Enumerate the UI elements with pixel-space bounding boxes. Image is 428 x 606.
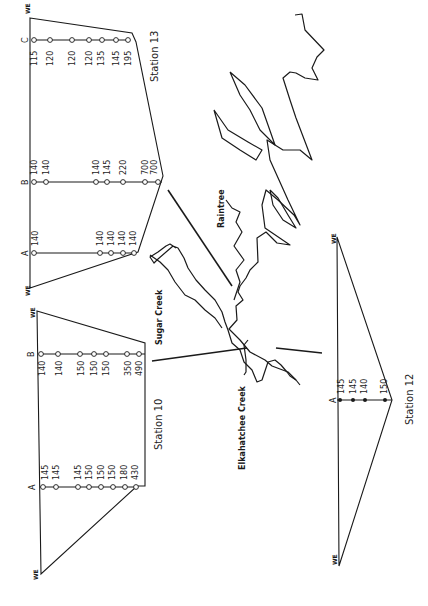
column-label: A	[28, 484, 37, 490]
station-13-group: WE WE C 115 120 120 120 135 145 195 B 14…	[21, 3, 163, 296]
lake-arm-east	[214, 110, 262, 160]
depth-value: 140	[42, 160, 51, 175]
station-10-column-a: A 145 145 145 150 150 150 180 430	[28, 465, 140, 490]
depth-value: 150	[102, 361, 111, 376]
station-12-we-bottom: WE	[331, 554, 338, 565]
depth-value: 140	[118, 231, 127, 246]
depth-value: 140	[31, 231, 40, 246]
depth-value: 140	[360, 379, 369, 394]
depth-value: 145	[337, 379, 346, 394]
depth-value: 140	[30, 160, 39, 175]
column-label: C	[21, 37, 30, 43]
depth-value: 120	[68, 51, 77, 66]
column-label: B	[27, 352, 36, 358]
lake-map: Sugar Creek Raintree Elkahatchee Creek	[150, 14, 324, 470]
station-12-label: Station 12	[404, 374, 415, 425]
station-13-we-bottom: WE	[24, 285, 31, 296]
station-12-group: WE WE A 145 145 140 150 Station 12	[329, 233, 415, 566]
depth-value: 145	[349, 379, 358, 394]
station-10-we-top: WE	[29, 307, 36, 318]
depth-value: 195	[124, 51, 133, 66]
depth-value: 150	[380, 379, 389, 394]
depth-value: 350	[124, 361, 133, 376]
depth-value: 150	[77, 361, 86, 376]
depth-value: 150	[108, 465, 117, 480]
depth-value: 490	[135, 361, 144, 376]
depth-value: 180	[120, 465, 129, 480]
column-label: A	[329, 397, 338, 403]
depth-value: 145	[41, 465, 50, 480]
depth-value: 150	[90, 361, 99, 376]
station-13-we-top: WE	[24, 3, 31, 14]
depth-value: 430	[131, 465, 140, 480]
station-13-column-a: A 140 140 140 140 140	[21, 231, 138, 256]
reservoir-station-diagram: WE WE C 115 120 120 120 135 145 195 B 14…	[0, 0, 428, 606]
station-10-pointer-line	[152, 348, 247, 361]
depth-value: 145	[103, 160, 112, 175]
station-10-cross-section	[37, 311, 145, 574]
station-13-column-b: B 140 140 140 145 220 700 700	[21, 160, 162, 185]
depth-value: 120	[46, 51, 55, 66]
depth-value: 145	[112, 51, 121, 66]
depth-value: 150	[85, 465, 94, 480]
station-12-we-top: WE	[330, 233, 337, 244]
depth-value: 140	[38, 361, 47, 376]
lake-outline-upper	[229, 14, 324, 385]
depth-value: 140	[107, 231, 116, 246]
depth-value: 140	[129, 231, 138, 246]
sugar-creek-label: Sugar Creek	[155, 289, 164, 345]
station-10-column-b: B 140 140 150 150 150 350 490	[27, 352, 145, 377]
depth-value: 115	[30, 51, 39, 66]
depth-value: 700	[141, 160, 150, 175]
depth-value: 140	[92, 160, 101, 175]
station-10-label: Station 10	[153, 399, 164, 450]
station-10-we-bottom: WE	[32, 569, 39, 580]
station-12-column-a: A 145 145 140 150	[329, 379, 392, 403]
raintree-label: Raintree	[217, 189, 226, 228]
depth-value: 220	[119, 160, 128, 175]
lake-outline-lower	[150, 244, 296, 382]
depth-value: 140	[96, 231, 105, 246]
depth-value: 150	[97, 465, 106, 480]
depth-value: 700	[150, 160, 159, 175]
column-label: A	[21, 250, 30, 256]
station-13-label: Station 13	[149, 31, 160, 82]
depth-value: 145	[52, 465, 61, 480]
elkahatchee-creek-label: Elkahatchee Creek	[238, 385, 247, 470]
lake-arm-elkahatchee	[244, 340, 248, 375]
lake-arm-north-1	[230, 72, 275, 145]
station-10-group: WE WE B 140 140 150 150 150 350 490 A 14…	[27, 307, 164, 580]
station-13-column-c: C 115 120 120 120 135 145 195	[21, 37, 133, 66]
column-label: B	[21, 180, 30, 186]
depth-value: 140	[55, 361, 64, 376]
station-12-pointer-line	[276, 348, 322, 353]
depth-value: 145	[74, 465, 83, 480]
depth-value: 120	[85, 51, 94, 66]
depth-value: 135	[97, 51, 106, 66]
